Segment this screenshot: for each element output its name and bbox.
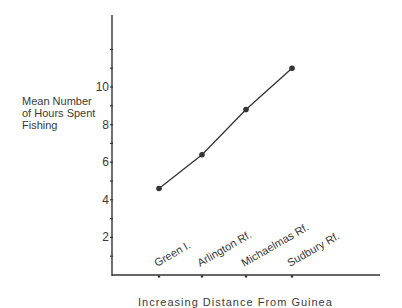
x-axis-title: Increasing Distance From Guinea bbox=[138, 296, 333, 308]
data-point bbox=[289, 65, 295, 71]
x-category-label: Green I. bbox=[152, 238, 192, 268]
y-tick-label: 10 bbox=[96, 80, 110, 94]
y-tick-label: 4 bbox=[102, 193, 109, 207]
y-axis-label-line-2: of Hours Spent bbox=[22, 107, 95, 119]
y-axis-label-line-3: Fishing bbox=[22, 119, 95, 131]
x-tick bbox=[245, 275, 247, 277]
data-point bbox=[199, 152, 205, 158]
data-point bbox=[243, 107, 249, 113]
y-tick-label: 2 bbox=[102, 230, 109, 244]
x-tick bbox=[201, 275, 203, 277]
data-line bbox=[159, 68, 292, 188]
y-tick-label: 6 bbox=[102, 155, 109, 169]
data-point bbox=[156, 186, 162, 192]
x-tick bbox=[158, 275, 160, 277]
y-axis-label-line-1: Mean Number bbox=[22, 95, 95, 107]
y-tick-label: 8 bbox=[102, 118, 109, 132]
x-tick bbox=[291, 275, 293, 277]
y-axis-label: Mean Number of Hours Spent Fishing bbox=[22, 95, 95, 131]
